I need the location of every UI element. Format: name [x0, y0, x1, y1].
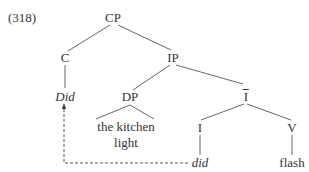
- triangle-dp-left: [96, 105, 130, 119]
- example-number: (318): [8, 11, 36, 25]
- branch-ip-dp: [133, 65, 170, 90]
- node-c: C: [61, 51, 70, 65]
- node-dp: DP: [122, 90, 139, 104]
- branch-cp-c: [68, 25, 110, 51]
- word-did-c: Did: [55, 90, 75, 104]
- branch-cp-ip: [118, 25, 171, 50]
- dp-words-line2: light: [114, 136, 138, 150]
- branch-ibar-i: [201, 104, 244, 120]
- branch-ip-ibar: [176, 65, 243, 84]
- node-v: V: [287, 121, 296, 135]
- node-ibar: I: [244, 90, 248, 104]
- word-did-i: did: [192, 156, 209, 170]
- node-ip: IP: [167, 51, 179, 65]
- dp-words-line1: the kitchen: [97, 120, 154, 134]
- word-flash: flash: [279, 156, 304, 170]
- tree-branches: [0, 0, 309, 172]
- node-cp: CP: [105, 11, 121, 25]
- ibar-label: I: [244, 90, 248, 104]
- branch-ibar-v: [247, 104, 291, 120]
- triangle-dp-right: [130, 105, 154, 119]
- node-i: I: [198, 121, 202, 135]
